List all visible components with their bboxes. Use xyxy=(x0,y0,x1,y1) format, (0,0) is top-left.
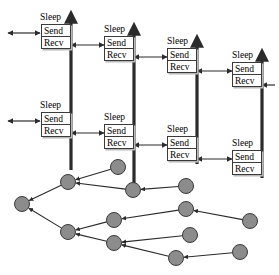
recv-state-box[interactable]: Recv xyxy=(167,148,197,161)
tree-node[interactable] xyxy=(107,236,122,251)
tree-edge xyxy=(76,234,107,241)
tree-edge xyxy=(29,208,62,228)
recv-state-box[interactable]: Recv xyxy=(104,48,134,61)
sleep-label: Sleep xyxy=(167,36,188,47)
tree-node[interactable] xyxy=(183,228,198,243)
tree-node[interactable] xyxy=(111,160,126,175)
tree-node[interactable] xyxy=(61,225,76,240)
tree-nodes-group xyxy=(15,160,258,266)
tree-edge xyxy=(141,187,179,190)
recv-state-box[interactable]: Recv xyxy=(41,124,71,137)
tree-node[interactable] xyxy=(179,202,194,217)
recv-state-box[interactable]: Recv xyxy=(104,136,134,149)
tree-node[interactable] xyxy=(107,213,122,228)
tree-edge xyxy=(122,245,169,256)
tree-node[interactable] xyxy=(15,197,30,212)
diagram-canvas: SleepSendRecvSleepSendRecvSleepSendRecvS… xyxy=(0,0,279,275)
tree-edge xyxy=(76,183,126,189)
tree-node[interactable] xyxy=(243,214,258,229)
sleep-label: Sleep xyxy=(232,138,253,149)
sleep-label: Sleep xyxy=(167,124,188,135)
tree-node[interactable] xyxy=(61,175,76,190)
sleep-label: Sleep xyxy=(232,50,253,61)
sleep-label: Sleep xyxy=(104,112,125,123)
tree-edge xyxy=(194,210,243,219)
recv-state-box[interactable]: Recv xyxy=(41,36,71,49)
recv-state-box[interactable]: Recv xyxy=(167,60,197,73)
sleep-label: Sleep xyxy=(104,24,125,35)
tree-edge xyxy=(184,253,233,258)
recv-state-box[interactable]: Recv xyxy=(232,162,262,175)
tree-edge xyxy=(29,185,61,200)
tree-node[interactable] xyxy=(233,245,248,260)
sleep-label: Sleep xyxy=(40,12,61,23)
recv-state-box[interactable]: Recv xyxy=(232,74,262,87)
sleep-label: Sleep xyxy=(40,100,61,111)
tree-edge xyxy=(76,169,111,180)
tree-edge xyxy=(122,236,183,242)
tree-node[interactable] xyxy=(169,251,184,266)
tree-edge xyxy=(122,210,179,219)
tree-node[interactable] xyxy=(179,179,194,194)
tree-edge xyxy=(76,222,107,230)
tree-node[interactable] xyxy=(126,183,141,198)
